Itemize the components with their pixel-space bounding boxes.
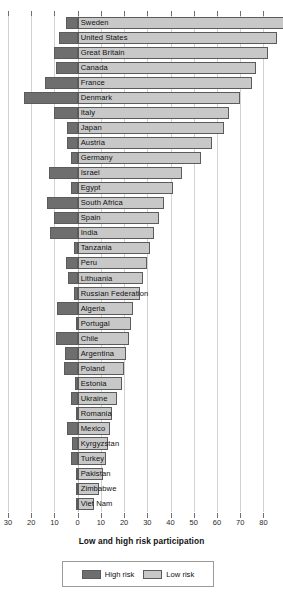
legend-swatch-low-risk [143,570,162,579]
bar-high-risk [71,182,78,194]
bar-row: South Africa [8,196,275,211]
bar-row: Argentina [8,347,275,362]
bar-category-label: Mexico [81,423,106,435]
bar-category-label: Estonia [81,378,107,390]
x-axis-tick-label: 10 [97,518,105,527]
bar-high-risk [50,227,78,239]
bar-high-risk [59,32,78,44]
bar-high-risk [65,347,78,359]
bar-low-risk [78,107,229,119]
bar-row: Algeria [8,302,275,317]
x-axis-tick-label: 40 [166,518,174,527]
x-axis-tick-label: 80 [259,518,267,527]
bar-row: Great Britain [8,46,275,61]
bar-row: United States [8,31,275,46]
bar-category-label: Argentina [81,348,114,360]
bar-row: Japan [8,121,275,136]
bar-high-risk [54,47,77,59]
plot-area: SwedenUnited StatesGreat BritainCanadaFr… [8,16,275,512]
bar-category-label: Sweden [81,17,109,29]
bar-row: India [8,226,275,241]
bar-row: Viet Nam [8,497,275,512]
bar-category-label: Spain [81,212,101,224]
x-axis-tick-label: 20 [27,518,35,527]
bar-category-label: Egypt [81,182,101,194]
bar-category-label: Great Britain [81,47,125,59]
bar-row: France [8,76,275,91]
bar-high-risk [56,332,78,344]
bar-row: Zimbabwe [8,482,275,497]
bar-row: Chile [8,332,275,347]
bar-category-label: Chile [81,333,99,345]
bar-high-risk [71,152,78,164]
bar-high-risk [66,257,78,269]
bar-high-risk [71,452,78,464]
bar-row: Poland [8,362,275,377]
bar-category-label: Algeria [81,303,105,315]
bar-category-label: Denmark [81,92,113,104]
bar-category-label: South Africa [81,197,123,209]
x-axis-tick-label: 20 [120,518,128,527]
bar-row: Estonia [8,377,275,392]
bar-category-label: Tanzania [81,242,112,254]
bar-row: Russian Federation [8,287,275,302]
x-axis-tick-label: 70 [236,518,244,527]
legend-label-high-risk: High risk [105,570,135,579]
bar-category-label: Poland [81,363,105,375]
bar-category-label: Peru [81,257,97,269]
bar-high-risk [64,362,78,374]
bar-category-label: Pakistan [81,468,111,480]
legend-swatch-high-risk [82,570,101,579]
bar-row: Germany [8,151,275,166]
bar-category-label: Italy [81,107,95,119]
bar-high-risk [56,62,78,74]
bar-category-label: Austria [81,137,105,149]
bar-high-risk [45,77,78,89]
x-axis-tick-label: 50 [190,518,198,527]
bar-category-label: Portugal [81,318,110,330]
x-axis-tick-label: 30 [143,518,151,527]
bar-row: Turkey [8,452,275,467]
chart-legend: High risk Low risk [62,561,214,587]
bar-row: Lithuania [8,272,275,287]
bar-row: Romania [8,407,275,422]
legend-label-low-risk: Low risk [166,570,194,579]
bar-high-risk [54,212,77,224]
bar-row: Denmark [8,91,275,106]
bar-row: Ukraine [8,392,275,407]
bar-row: Peru [8,256,275,271]
bar-row: Italy [8,106,275,121]
bar-row: Kyrgyzstan [8,437,275,452]
bar-row: Austria [8,136,275,151]
bar-category-label: Kyrgyzstan [81,438,120,450]
bar-category-label: Japan [81,122,102,134]
chart-container: SwedenUnited StatesGreat BritainCanadaFr… [0,0,283,599]
bar-category-label: Romania [81,408,112,420]
bar-category-label: India [81,227,98,239]
bar-high-risk [47,197,77,209]
bar-high-risk [24,92,77,104]
bar-category-label: Turkey [81,453,105,465]
bar-row: Pakistan [8,467,275,482]
bar-category-label: France [81,77,105,89]
bar-category-label: Russian Federation [81,288,149,300]
x-axis-tick-labels: 30201001020304050607080 [8,518,275,530]
bar-high-risk [57,302,78,314]
bar-row: Sweden [8,16,275,31]
bar-category-label: Ukraine [81,393,108,405]
bar-row: Mexico [8,422,275,437]
bar-high-risk [71,392,78,404]
bar-row: Canada [8,61,275,76]
bar-high-risk [67,422,77,434]
bar-row: Egypt [8,181,275,196]
bar-high-risk [66,17,78,29]
x-axis-tick-label: 10 [50,518,58,527]
bar-category-label: Canada [81,62,108,74]
bar-category-label: Lithuania [81,273,113,285]
bar-row: Spain [8,211,275,226]
bar-category-label: Zimbabwe [81,483,117,495]
bar-high-risk [68,272,77,284]
legend-entry-high-risk: High risk [82,570,135,579]
bar-row: Israel [8,166,275,181]
bar-high-risk [67,122,77,134]
